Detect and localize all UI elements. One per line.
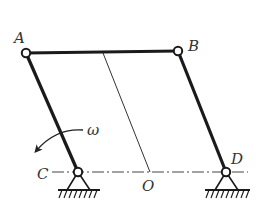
link-ca <box>26 53 78 172</box>
joint-b <box>174 47 182 55</box>
joint-d <box>222 168 230 176</box>
joint-a <box>22 49 30 57</box>
label-a: A <box>12 29 25 47</box>
label-d: D <box>230 150 243 168</box>
link-db <box>178 51 226 172</box>
diagram-canvas: A B C D O ω <box>0 0 271 224</box>
ground-hatching-d <box>206 190 249 198</box>
label-b: B <box>187 37 199 55</box>
link-ab <box>26 51 178 53</box>
label-o: O <box>142 177 154 195</box>
joint-c <box>74 168 82 176</box>
ground-hatching-c <box>59 190 97 198</box>
omega-arrow-icon <box>37 130 83 150</box>
label-c: C <box>37 165 49 183</box>
thin-line-to-o <box>103 53 150 172</box>
four-bar-linkage-diagram: A B C D O ω <box>0 0 271 224</box>
label-omega: ω <box>87 121 99 139</box>
